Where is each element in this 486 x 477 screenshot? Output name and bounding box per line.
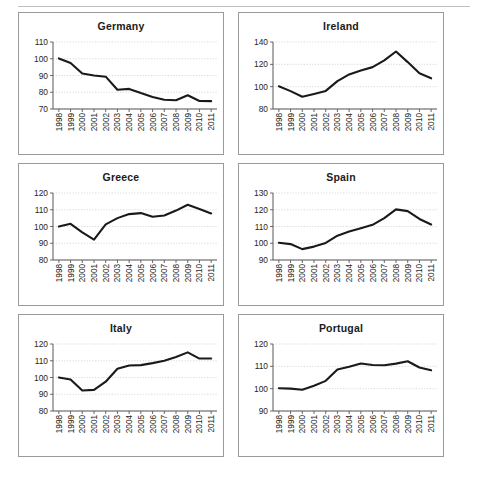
svg-text:2005: 2005	[137, 113, 146, 132]
svg-text:2001: 2001	[90, 264, 99, 283]
panel-grid: Germany 70809010011019981999200020012002…	[0, 12, 486, 465]
svg-text:2009: 2009	[184, 415, 193, 434]
svg-text:2011: 2011	[427, 415, 436, 433]
svg-text:2010: 2010	[415, 264, 424, 283]
svg-text:2001: 2001	[310, 415, 319, 434]
svg-text:2007: 2007	[160, 113, 169, 132]
svg-text:2010: 2010	[195, 415, 204, 434]
svg-text:100: 100	[34, 54, 48, 64]
svg-text:1998: 1998	[55, 415, 64, 434]
svg-text:2008: 2008	[172, 264, 181, 283]
svg-text:1999: 1999	[287, 264, 296, 283]
svg-text:90: 90	[39, 71, 49, 81]
figure-page: Germany 70809010011019981999200020012002…	[0, 0, 486, 477]
panel-title-italy: Italy	[19, 322, 223, 334]
svg-text:2000: 2000	[78, 415, 87, 434]
svg-text:1999: 1999	[67, 113, 76, 132]
svg-text:2007: 2007	[160, 415, 169, 434]
panel-title-greece: Greece	[19, 171, 223, 183]
svg-text:110: 110	[35, 356, 49, 366]
svg-text:100: 100	[34, 373, 48, 383]
svg-text:90: 90	[39, 238, 49, 248]
svg-text:1998: 1998	[55, 264, 64, 283]
svg-text:2001: 2001	[310, 264, 319, 283]
svg-text:2003: 2003	[333, 113, 342, 132]
svg-text:2004: 2004	[125, 415, 134, 434]
svg-text:100: 100	[254, 384, 268, 394]
svg-text:2007: 2007	[160, 264, 169, 283]
panel-title-spain: Spain	[239, 171, 443, 183]
svg-text:2006: 2006	[369, 264, 378, 283]
svg-text:110: 110	[35, 205, 49, 215]
svg-text:2006: 2006	[149, 415, 158, 434]
svg-text:2009: 2009	[184, 113, 193, 132]
svg-text:140: 140	[254, 37, 268, 47]
svg-text:2003: 2003	[333, 415, 342, 434]
svg-text:2005: 2005	[357, 264, 366, 283]
svg-text:2008: 2008	[392, 264, 401, 283]
svg-text:2007: 2007	[380, 264, 389, 283]
svg-text:70: 70	[39, 104, 49, 114]
plot-area-ireland: 8010012014019981999200020012002200320042…	[239, 35, 445, 153]
svg-text:2005: 2005	[137, 264, 146, 283]
chart-panel-portugal: Portugal 9010011012019981999200020012002…	[238, 314, 444, 457]
svg-text:2011: 2011	[427, 113, 436, 131]
chart-panel-greece: Greece 809010011012019981999200020012002…	[18, 163, 224, 306]
svg-text:110: 110	[35, 37, 49, 47]
svg-text:90: 90	[259, 406, 269, 416]
svg-text:1999: 1999	[287, 113, 296, 132]
svg-text:2006: 2006	[149, 113, 158, 132]
svg-text:2002: 2002	[102, 113, 111, 132]
svg-text:2000: 2000	[78, 113, 87, 132]
svg-text:80: 80	[259, 104, 269, 114]
svg-text:2000: 2000	[298, 113, 307, 132]
svg-text:2006: 2006	[149, 264, 158, 283]
svg-text:2005: 2005	[137, 415, 146, 434]
svg-text:80: 80	[39, 406, 49, 416]
svg-text:2000: 2000	[298, 264, 307, 283]
svg-text:2002: 2002	[102, 415, 111, 434]
svg-text:2009: 2009	[404, 113, 413, 132]
panel-title-ireland: Ireland	[239, 20, 443, 32]
svg-text:2004: 2004	[125, 113, 134, 132]
svg-text:120: 120	[34, 339, 48, 349]
svg-text:2009: 2009	[184, 264, 193, 283]
svg-text:2002: 2002	[322, 113, 331, 132]
svg-text:2006: 2006	[369, 113, 378, 132]
svg-text:2008: 2008	[172, 113, 181, 132]
svg-text:2003: 2003	[333, 264, 342, 283]
svg-text:2003: 2003	[113, 113, 122, 132]
svg-text:2004: 2004	[345, 415, 354, 434]
svg-text:1998: 1998	[275, 264, 284, 283]
svg-text:2008: 2008	[392, 415, 401, 434]
svg-text:2010: 2010	[195, 113, 204, 132]
svg-text:2001: 2001	[90, 113, 99, 132]
svg-text:2003: 2003	[113, 264, 122, 283]
svg-text:2010: 2010	[195, 264, 204, 283]
svg-text:2004: 2004	[125, 264, 134, 283]
svg-text:110: 110	[255, 222, 269, 232]
svg-text:2002: 2002	[322, 415, 331, 434]
svg-text:2011: 2011	[207, 415, 216, 433]
svg-text:80: 80	[39, 87, 49, 97]
svg-text:80: 80	[39, 255, 49, 265]
svg-text:120: 120	[34, 188, 48, 198]
chart-panel-italy: Italy 8090100110120199819992000200120022…	[18, 314, 224, 457]
svg-text:120: 120	[254, 339, 268, 349]
panel-title-portugal: Portugal	[239, 322, 443, 334]
svg-text:1999: 1999	[67, 415, 76, 434]
svg-text:2004: 2004	[345, 264, 354, 283]
plot-area-portugal: 9010011012019981999200020012002200320042…	[239, 337, 445, 455]
plot-area-spain: 9010011012013019981999200020012002200320…	[239, 186, 445, 304]
svg-text:100: 100	[254, 82, 268, 92]
svg-text:1998: 1998	[55, 113, 64, 132]
svg-text:2005: 2005	[357, 415, 366, 434]
svg-text:130: 130	[254, 188, 268, 198]
top-divider-rule	[18, 6, 470, 7]
svg-text:2005: 2005	[357, 113, 366, 132]
svg-text:2004: 2004	[345, 113, 354, 132]
svg-text:1999: 1999	[67, 264, 76, 283]
svg-text:90: 90	[39, 389, 49, 399]
plot-area-italy: 8090100110120199819992000200120022003200…	[19, 337, 225, 455]
svg-text:2010: 2010	[415, 113, 424, 132]
